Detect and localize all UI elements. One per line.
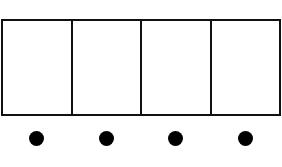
cell-4	[212, 21, 280, 114]
dot-1	[29, 131, 44, 146]
cell-1	[3, 21, 73, 114]
dot-4	[238, 131, 253, 146]
cell-3	[142, 21, 212, 114]
four-cell-box	[1, 19, 281, 116]
dot-3	[168, 131, 183, 146]
cell-2	[73, 21, 143, 114]
dot-2	[99, 131, 114, 146]
